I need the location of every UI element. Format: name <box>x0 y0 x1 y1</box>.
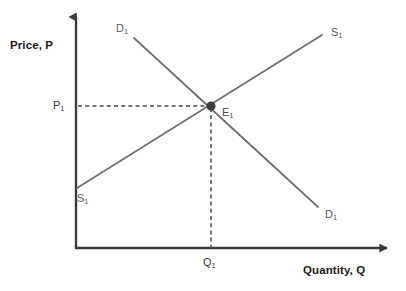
quantity-tick-subscript: 1 <box>212 261 216 270</box>
supply-label-subscript-top: 1 <box>338 31 342 40</box>
diagram-canvas <box>0 0 406 291</box>
price-tick-label: P1 <box>53 100 65 111</box>
demand-curve <box>134 38 318 207</box>
demand-curve-label-top: D1 <box>116 23 128 34</box>
quantity-tick-label: Q1 <box>203 257 216 268</box>
supply-curve <box>77 35 322 188</box>
supply-curve-label-bottom: S1 <box>77 193 89 204</box>
equilibrium-point-label: E1 <box>222 107 234 118</box>
supply-curve-label-top: S1 <box>331 27 343 38</box>
demand-curve-label-bottom: D1 <box>325 209 337 220</box>
equilibrium-point-marker <box>206 101 215 110</box>
price-tick-subscript: 1 <box>60 104 64 113</box>
x-axis-title: Quantity, Q <box>303 265 365 277</box>
supply-demand-diagram: Price, P Quantity, Q P1 Q1 D1 D1 S1 S1 E… <box>0 0 406 291</box>
equilibrium-label-subscript: 1 <box>229 111 233 120</box>
demand-label-letter-bottom: D <box>325 208 333 220</box>
demand-label-subscript-top: 1 <box>124 27 128 36</box>
y-axis-title: Price, P <box>10 40 53 52</box>
demand-label-subscript-bottom: 1 <box>333 213 337 222</box>
supply-label-subscript-bottom: 1 <box>84 197 88 206</box>
demand-label-letter-top: D <box>116 22 124 34</box>
quantity-tick-letter: Q <box>203 256 212 268</box>
